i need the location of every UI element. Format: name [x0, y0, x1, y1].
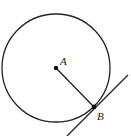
point-b: [92, 105, 97, 110]
radius-segment-ab: [56, 68, 94, 107]
diagram-canvas: A B: [0, 0, 131, 136]
label-b: B: [97, 110, 104, 122]
tangent-line: [67, 75, 128, 136]
label-a: A: [59, 55, 67, 67]
point-a: [54, 66, 58, 70]
